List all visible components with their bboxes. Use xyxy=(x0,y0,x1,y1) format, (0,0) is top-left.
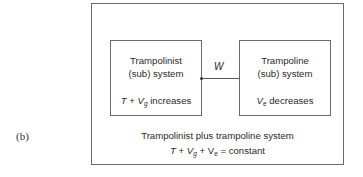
trampolinist-title: Trampolinist xyxy=(111,55,201,67)
connector-dot xyxy=(200,77,203,80)
plus-sign: + xyxy=(176,145,187,156)
trampolinist-subsystem-box: Trampolinist (sub) system T + Vg increas… xyxy=(110,40,202,116)
trampoline-subsystem-box: Trampoline (sub) system Ve decreases xyxy=(239,40,331,116)
trampoline-subtitle: (sub) system xyxy=(240,68,330,80)
trampoline-title: Trampoline xyxy=(240,55,330,67)
figure-label: (b) xyxy=(16,130,29,142)
trampoline-energy-change: Ve decreases xyxy=(240,95,330,107)
plus-sign: + xyxy=(127,95,138,106)
change-text: increases xyxy=(148,95,192,106)
conservation-equation: T + Vg + Ve = constant xyxy=(91,145,344,156)
system-title: Trampolinist plus trampoline system xyxy=(91,130,344,141)
trampolinist-subtitle: (sub) system xyxy=(111,68,201,80)
work-label: W xyxy=(214,61,223,72)
change-text: decreases xyxy=(267,95,314,106)
work-connector-line xyxy=(201,78,239,79)
plus-V: + V xyxy=(197,145,214,156)
trampolinist-energy-change: T + Vg increases xyxy=(111,95,201,107)
equals-constant: = constant xyxy=(218,145,265,156)
